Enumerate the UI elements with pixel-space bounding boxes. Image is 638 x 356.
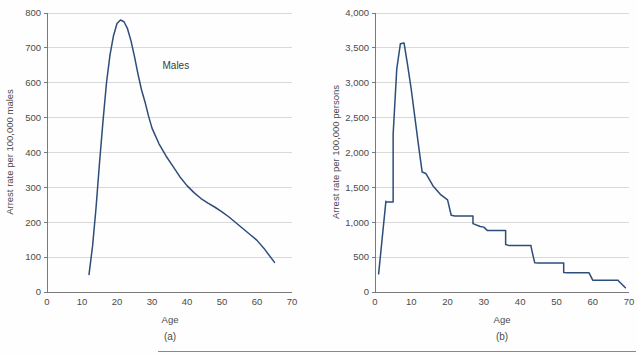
- chart-b-svg: 05001,0001,5002,0002,5003,0003,5004,000 …: [319, 0, 638, 356]
- chart-b-data-line: [379, 43, 626, 288]
- y-axis-tick-label: 0: [364, 286, 369, 297]
- chart-b-xtick-labels: 010203040506070: [372, 296, 634, 307]
- y-axis-tick-label: 2,000: [345, 147, 369, 158]
- chart-b-x-axis-title: Age: [494, 314, 511, 325]
- x-axis-tick-label: 0: [44, 296, 49, 307]
- chart-a-caption: (a): [164, 331, 176, 342]
- x-axis-tick-label: 10: [406, 296, 417, 307]
- x-axis-tick-label: 50: [551, 296, 562, 307]
- y-axis-tick-label: 0: [36, 286, 41, 297]
- x-axis-tick-label: 30: [147, 296, 158, 307]
- y-axis-tick-label: 300: [25, 182, 41, 193]
- x-axis-tick-label: 20: [112, 296, 123, 307]
- chart-a-xtick-labels: 010203040506070: [44, 296, 297, 307]
- x-axis-tick-label: 40: [515, 296, 526, 307]
- y-axis-tick-label: 3,500: [345, 42, 369, 53]
- chart-b-y-axis-title: Arrest rate per 100,000 persons: [330, 85, 341, 219]
- x-axis-tick-label: 40: [182, 296, 193, 307]
- chart-b-caption: (b): [496, 331, 508, 342]
- chart-panel-b: 05001,0001,5002,0002,5003,0003,5004,000 …: [319, 0, 638, 356]
- x-axis-tick-label: 70: [287, 296, 298, 307]
- y-axis-tick-label: 4,000: [345, 7, 369, 18]
- y-axis-tick-label: 100: [25, 251, 41, 262]
- y-axis-tick-label: 700: [25, 42, 41, 53]
- y-axis-tick-label: 500: [353, 251, 369, 262]
- x-axis-tick-label: 10: [77, 296, 88, 307]
- y-axis-tick-label: 400: [25, 147, 41, 158]
- chart-a-series-annotation: Males: [163, 60, 190, 71]
- chart-a-gridlines: [47, 13, 292, 257]
- y-axis-tick-label: 1,500: [345, 182, 369, 193]
- y-axis-tick-label: 600: [25, 77, 41, 88]
- y-axis-tick-label: 500: [25, 112, 41, 123]
- y-axis-tick-label: 2,500: [345, 112, 369, 123]
- figure-bottom-rule: [158, 351, 636, 352]
- chart-a-data-line: [89, 20, 275, 275]
- chart-a-svg: 0100200300400500600700800 01020304050607…: [0, 0, 319, 356]
- y-axis-tick-label: 200: [25, 217, 41, 228]
- x-axis-tick-label: 60: [252, 296, 263, 307]
- y-axis-tick-label: 800: [25, 7, 41, 18]
- chart-a-ytick-labels: 0100200300400500600700800: [25, 7, 47, 297]
- chart-b-gridlines: [375, 13, 629, 257]
- x-axis-tick-label: 0: [372, 296, 377, 307]
- chart-b-ytick-labels: 05001,0001,5002,0002,5003,0003,5004,000: [345, 7, 375, 297]
- x-axis-tick-label: 70: [624, 296, 635, 307]
- chart-panel-a: 0100200300400500600700800 01020304050607…: [0, 0, 319, 356]
- x-axis-tick-label: 30: [479, 296, 490, 307]
- y-axis-tick-label: 1,000: [345, 217, 369, 228]
- chart-a-y-axis-title: Arrest rate per 100,000 males: [4, 89, 15, 215]
- figure-root: 0100200300400500600700800 01020304050607…: [0, 0, 638, 356]
- x-axis-tick-label: 20: [442, 296, 453, 307]
- x-axis-tick-label: 60: [587, 296, 598, 307]
- x-axis-tick-label: 50: [217, 296, 228, 307]
- y-axis-tick-label: 3,000: [345, 77, 369, 88]
- chart-a-x-axis-title: Age: [162, 314, 179, 325]
